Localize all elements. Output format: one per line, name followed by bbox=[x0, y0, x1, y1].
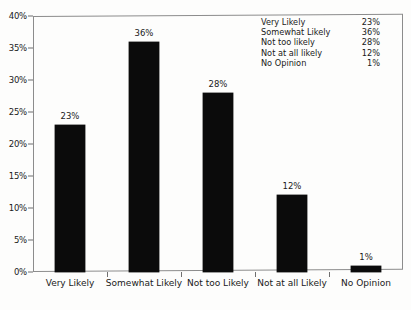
legend-value: 36% bbox=[358, 27, 380, 37]
legend: Very Likely23%Somewhat Likely36%Not too … bbox=[261, 17, 386, 68]
y-axis-tick-mark bbox=[28, 80, 33, 81]
x-axis-tick-mark bbox=[329, 272, 330, 277]
y-axis-tick-label: 30% bbox=[9, 75, 27, 85]
legend-row: Somewhat Likely36% bbox=[261, 27, 386, 37]
x-axis-tick-mark bbox=[107, 272, 108, 277]
y-axis-tick-label: 15% bbox=[9, 171, 27, 181]
legend-label: No Opinion bbox=[261, 58, 306, 68]
legend-value: 1% bbox=[358, 58, 380, 68]
y-axis-tick-label: 25% bbox=[9, 107, 27, 117]
legend-row: Very Likely23% bbox=[261, 17, 386, 27]
bar-value-label: 23% bbox=[61, 111, 80, 121]
y-axis-tick-mark bbox=[28, 208, 33, 209]
legend-label: Not at all likely bbox=[261, 48, 322, 58]
y-axis: 0%5%10%15%20%25%30%35%40% bbox=[0, 0, 33, 310]
legend-row: No Opinion1% bbox=[261, 58, 386, 68]
bar-chart: 0%5%10%15%20%25%30%35%40% Very LikelySom… bbox=[0, 0, 411, 310]
bar bbox=[55, 125, 85, 272]
legend-label: Very Likely bbox=[261, 17, 305, 27]
legend-label: Somewhat Likely bbox=[261, 27, 330, 37]
x-axis-tick-mark bbox=[181, 272, 182, 277]
y-axis-tick-label: 20% bbox=[9, 139, 27, 149]
y-axis-tick-mark bbox=[28, 112, 33, 113]
x-axis-tick-label: Very Likely bbox=[46, 278, 95, 288]
bar-value-label: 36% bbox=[135, 28, 154, 38]
bar-value-label: 12% bbox=[283, 181, 302, 191]
bar-value-label: 28% bbox=[209, 79, 228, 89]
y-axis-tick-label: 10% bbox=[9, 203, 27, 213]
legend-value: 28% bbox=[358, 37, 380, 47]
y-axis-tick-label: 5% bbox=[14, 235, 27, 245]
x-axis-tick-label: No Opinion bbox=[341, 278, 391, 288]
y-axis-tick-mark bbox=[28, 16, 33, 17]
bar bbox=[277, 195, 307, 272]
y-axis-tick-mark bbox=[28, 272, 33, 273]
y-axis-tick-mark bbox=[28, 48, 33, 49]
legend-value: 23% bbox=[358, 17, 380, 27]
legend-row: Not at all likely12% bbox=[261, 48, 386, 58]
x-axis-tick-label: Somewhat Likely bbox=[106, 278, 182, 288]
y-axis-tick-mark bbox=[28, 240, 33, 241]
legend-row: Not too likely28% bbox=[261, 37, 386, 47]
x-axis-tick-label: Not too Likely bbox=[187, 278, 249, 288]
x-axis-tick-mark bbox=[255, 272, 256, 277]
y-axis-tick-label: 40% bbox=[9, 11, 27, 21]
bar bbox=[203, 93, 233, 272]
bar bbox=[129, 42, 159, 272]
legend-value: 12% bbox=[358, 48, 380, 58]
y-axis-tick-label: 0% bbox=[14, 267, 27, 277]
x-axis-tick-label: Not at all Likely bbox=[257, 278, 327, 288]
y-axis-tick-label: 35% bbox=[9, 43, 27, 53]
y-axis-tick-mark bbox=[28, 144, 33, 145]
bar-value-label: 1% bbox=[359, 252, 373, 262]
y-axis-tick-mark bbox=[28, 176, 33, 177]
bar bbox=[351, 266, 381, 272]
legend-label: Not too likely bbox=[261, 37, 315, 47]
